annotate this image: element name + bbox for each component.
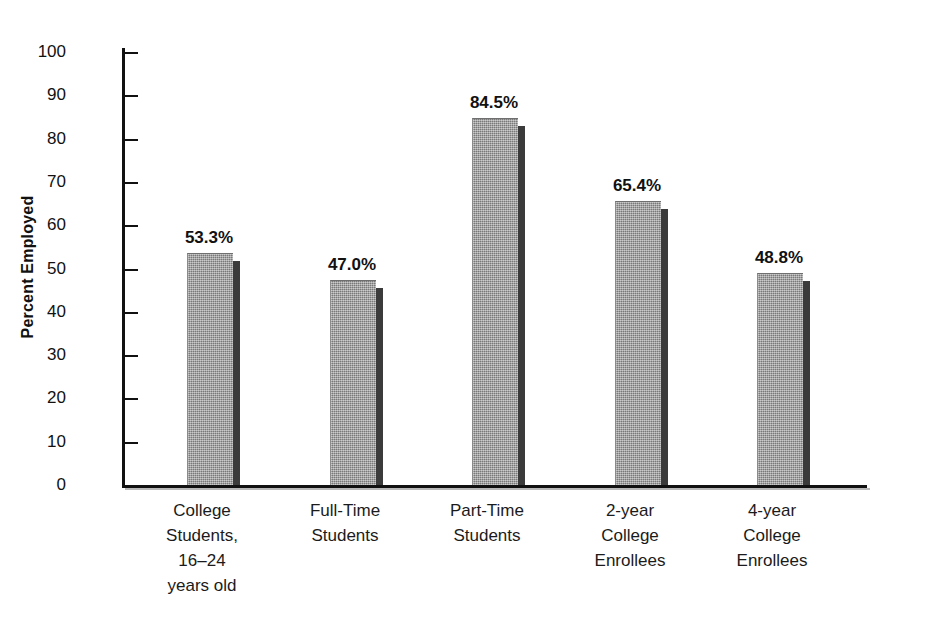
bar-full-time-students[interactable]: [330, 280, 376, 485]
bar-four-year-college-enrollees[interactable]: [757, 273, 803, 485]
category-label-line: 16–24: [117, 548, 287, 573]
y-tick-mark: [125, 442, 138, 444]
y-tick-label: 40: [14, 303, 66, 320]
y-tick-label: 0: [14, 476, 66, 493]
bar-group-four-year-college-enrollees[interactable]: 48.8%: [757, 274, 802, 485]
bar-shadow: [517, 126, 525, 485]
bar-college-students[interactable]: [187, 253, 233, 485]
bar-shadow: [660, 209, 668, 485]
bar-value-label: 65.4%: [581, 176, 693, 196]
y-tick-label: 90: [14, 86, 66, 103]
y-tick-label: 80: [14, 130, 66, 147]
bar-shadow: [802, 281, 810, 485]
bar-group-full-time-students[interactable]: 47.0%: [330, 281, 375, 485]
category-label-line: Enrollees: [687, 548, 857, 573]
y-tick-mark: [125, 312, 138, 314]
y-tick-label: 10: [14, 433, 66, 450]
category-label-line: 4-year: [687, 498, 857, 523]
bar-value-label: 84.5%: [438, 93, 550, 113]
y-tick-label: 50: [14, 260, 66, 277]
y-tick-mark: [125, 269, 138, 271]
y-tick-mark: [125, 182, 138, 184]
x-axis-line-shadow: [125, 488, 870, 490]
y-tick-mark: [125, 485, 138, 487]
y-tick-label: 60: [14, 216, 66, 233]
y-tick-label: 100: [14, 43, 66, 60]
y-tick-label: 30: [14, 346, 66, 363]
category-label-four-year-college-enrollees: 4-yearCollegeEnrollees: [687, 498, 857, 573]
bar-part-time-students[interactable]: [472, 118, 518, 485]
bar-value-label: 47.0%: [296, 255, 408, 275]
y-tick-mark: [125, 355, 138, 357]
bar-value-label: 48.8%: [723, 248, 835, 268]
y-tick-label: 20: [14, 389, 66, 406]
y-tick-mark: [125, 95, 138, 97]
bar-group-part-time-students[interactable]: 84.5%: [472, 119, 517, 485]
bar-group-two-year-college-enrollees[interactable]: 65.4%: [615, 202, 660, 485]
y-tick-label: 70: [14, 173, 66, 190]
bar-value-label: 53.3%: [153, 228, 265, 248]
bar-shadow: [375, 288, 383, 485]
x-axis-line: [122, 485, 867, 488]
y-tick-mark: [125, 139, 138, 141]
bar-two-year-college-enrollees[interactable]: [615, 201, 661, 485]
y-tick-mark: [125, 225, 138, 227]
category-label-line: years old: [117, 573, 287, 598]
bar-shadow: [232, 261, 240, 485]
bar-chart: Percent Employed 0102030405060708090100 …: [0, 0, 938, 621]
y-tick-mark: [125, 52, 138, 54]
y-tick-mark: [125, 398, 138, 400]
category-label-line: College: [687, 523, 857, 548]
bar-group-college-students[interactable]: 53.3%: [187, 254, 232, 485]
